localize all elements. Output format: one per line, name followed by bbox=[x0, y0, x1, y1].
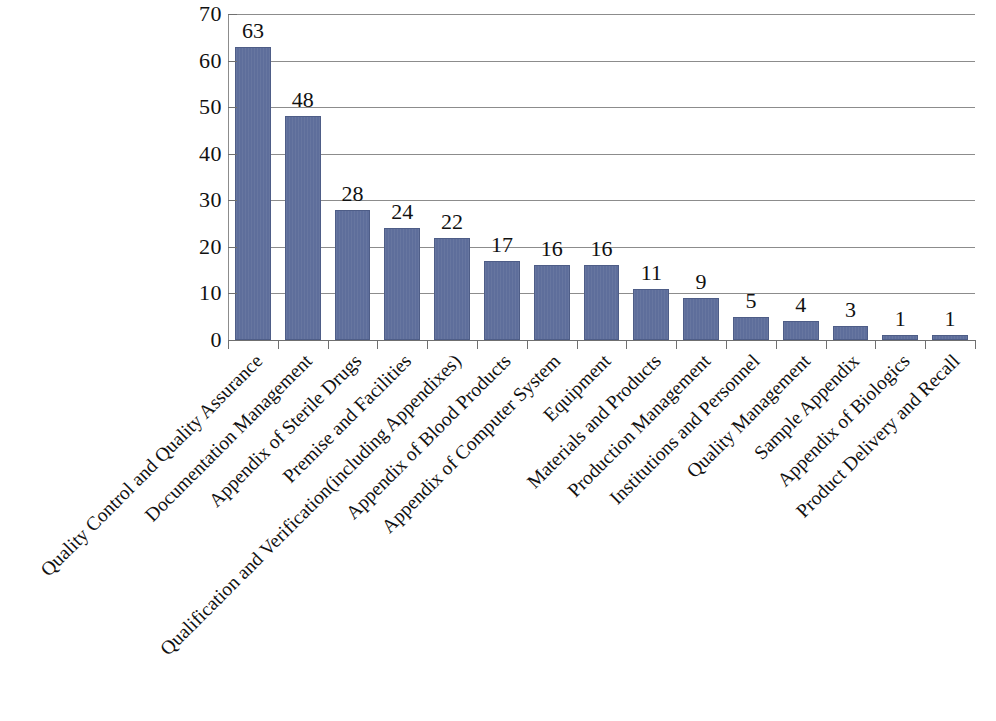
gridline bbox=[228, 107, 975, 108]
bar bbox=[484, 261, 520, 340]
bar bbox=[633, 289, 669, 340]
x-axis-tick-mark bbox=[278, 340, 279, 349]
y-axis-tick-label: 50 bbox=[199, 96, 222, 118]
x-axis-tick-mark bbox=[626, 340, 627, 349]
bar bbox=[733, 317, 769, 340]
bar-value-label: 16 bbox=[572, 238, 632, 260]
y-axis-tick-mark bbox=[228, 154, 237, 155]
y-axis-tick-label: 20 bbox=[199, 236, 222, 258]
bar bbox=[335, 210, 371, 340]
y-axis-tick-label: 0 bbox=[211, 329, 223, 351]
gridline bbox=[228, 61, 975, 62]
y-axis-tick-label: 60 bbox=[199, 50, 222, 72]
y-axis-tick-mark bbox=[228, 61, 237, 62]
y-axis-tick-mark bbox=[228, 293, 237, 294]
x-axis-category-label: Quality Control and Quality Assurance bbox=[37, 351, 266, 580]
bar-value-label: 48 bbox=[273, 89, 333, 111]
bar-value-label: 1 bbox=[920, 308, 980, 330]
bar bbox=[584, 265, 620, 340]
x-axis-tick-mark bbox=[776, 340, 777, 349]
x-axis-tick-mark bbox=[826, 340, 827, 349]
y-axis-tick-mark bbox=[228, 107, 237, 108]
x-axis-tick-mark bbox=[676, 340, 677, 349]
x-axis-tick-mark bbox=[975, 340, 976, 349]
bar-chart: 010203040506070 634828242217161611954311… bbox=[0, 0, 996, 721]
y-axis-tick-mark bbox=[228, 200, 237, 201]
gridline bbox=[228, 154, 975, 155]
y-axis-tick-label: 10 bbox=[199, 282, 222, 304]
x-axis-tick-mark bbox=[577, 340, 578, 349]
y-axis-tick-mark bbox=[228, 14, 237, 15]
x-axis-tick-mark bbox=[726, 340, 727, 349]
x-axis-line bbox=[228, 340, 976, 341]
y-axis-tick-label: 40 bbox=[199, 143, 222, 165]
bar-value-label: 22 bbox=[422, 211, 482, 233]
bar bbox=[235, 47, 271, 340]
x-axis-tick-mark bbox=[328, 340, 329, 349]
x-axis-tick-mark bbox=[228, 340, 229, 349]
bar bbox=[783, 321, 819, 340]
x-axis-tick-mark bbox=[527, 340, 528, 349]
plot-area bbox=[228, 14, 975, 340]
x-axis-tick-mark bbox=[875, 340, 876, 349]
x-axis-tick-mark bbox=[925, 340, 926, 349]
gridline bbox=[228, 14, 975, 15]
bar-value-label: 63 bbox=[223, 20, 283, 42]
y-axis-tick-label: 70 bbox=[199, 3, 222, 25]
bar bbox=[833, 326, 869, 340]
x-axis-tick-mark bbox=[377, 340, 378, 349]
bar bbox=[285, 116, 321, 340]
y-axis-tick-mark bbox=[228, 247, 237, 248]
y-axis-tick-mark bbox=[228, 340, 237, 341]
y-axis-tick-label: 30 bbox=[199, 189, 222, 211]
x-axis-tick-mark bbox=[427, 340, 428, 349]
bar bbox=[434, 238, 470, 340]
bar bbox=[384, 228, 420, 340]
x-axis-tick-mark bbox=[477, 340, 478, 349]
bar bbox=[534, 265, 570, 340]
bar bbox=[683, 298, 719, 340]
y-axis-line bbox=[228, 14, 229, 341]
